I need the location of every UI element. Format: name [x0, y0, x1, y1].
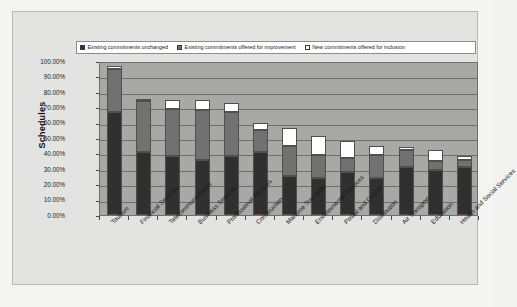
x-axis-tick-mark	[391, 216, 392, 220]
bar-segment[interactable]	[428, 150, 443, 162]
bar-segment[interactable]	[136, 99, 151, 101]
x-axis-tick-mark	[216, 216, 217, 220]
chart-legend: Existing commitments unchangedExisting c…	[76, 41, 476, 54]
bar-segment[interactable]	[369, 146, 384, 155]
x-axis-tick-mark	[332, 216, 333, 220]
bar-segment[interactable]	[107, 112, 122, 215]
legend-label: Existing commitments unchanged	[88, 45, 169, 50]
bar-segment[interactable]	[282, 128, 297, 146]
y-axis-tick-label: 40.00%	[20, 151, 65, 157]
y-axis-tick-label: 30.00%	[20, 167, 65, 173]
bar-segment[interactable]	[282, 146, 297, 176]
bar-segment[interactable]	[224, 112, 239, 157]
bar-segment[interactable]	[311, 155, 326, 178]
x-axis-tick-mark	[420, 216, 421, 220]
x-axis-tick-mark	[128, 216, 129, 220]
bar-segment[interactable]	[107, 66, 122, 69]
bar-segment[interactable]	[224, 103, 239, 112]
bar-segment[interactable]	[340, 158, 355, 172]
legend-label: Existing commitments offered for improve…	[185, 45, 296, 50]
bar-segment[interactable]	[136, 152, 151, 215]
legend-entry: Existing commitments offered for improve…	[177, 45, 296, 50]
gridline	[100, 78, 477, 79]
bar-segment[interactable]	[399, 147, 414, 150]
x-axis-tick-mark	[449, 216, 450, 220]
bar-segment[interactable]	[457, 156, 472, 159]
bar-segment[interactable]	[369, 155, 384, 178]
bar-segment[interactable]	[253, 130, 268, 152]
bar-segment[interactable]	[165, 100, 180, 109]
legend-swatch-icon	[177, 45, 182, 50]
y-axis-tick-label: 80.00%	[20, 90, 65, 96]
legend-swatch-icon	[305, 45, 310, 50]
x-axis-tick-mark	[186, 216, 187, 220]
gridline	[100, 94, 477, 95]
x-axis-tick-mark	[361, 216, 362, 220]
legend-swatch-icon	[80, 45, 85, 50]
y-axis-tick-label: 100.00%	[20, 59, 65, 65]
legend-label: New commitments offered for inclusion	[312, 45, 405, 50]
bar-segment[interactable]	[136, 101, 151, 152]
bar-segment[interactable]	[107, 69, 122, 112]
chart-frame: Existing commitments unchangedExisting c…	[12, 11, 478, 285]
legend-entry: Existing commitments unchanged	[80, 45, 168, 50]
x-axis-tick-mark	[157, 216, 158, 220]
y-axis-tick-label: 50.00%	[20, 136, 65, 142]
bar-segment[interactable]	[195, 100, 210, 111]
bar-segment[interactable]	[253, 123, 268, 131]
legend-entry: New commitments offered for inclusion	[305, 45, 405, 50]
bar-segment[interactable]	[340, 141, 355, 158]
gridline	[100, 125, 477, 126]
y-axis-tick-label: 90.00%	[20, 74, 65, 80]
gridline	[100, 109, 477, 110]
bar-segment[interactable]	[399, 150, 414, 167]
bar-segment[interactable]	[195, 110, 210, 159]
plot-area	[99, 62, 478, 216]
x-axis-tick-mark	[99, 216, 100, 220]
bar-segment[interactable]	[165, 109, 180, 157]
bar-segment[interactable]	[311, 136, 326, 155]
y-axis-tick-label: 10.00%	[20, 197, 65, 203]
x-axis-tick-mark	[478, 216, 479, 220]
y-axis-tick-label: 0.00%	[20, 213, 65, 219]
bar-segment[interactable]	[428, 161, 443, 170]
y-axis-tick-label: 70.00%	[20, 105, 65, 111]
x-axis-tick-mark	[245, 216, 246, 220]
x-axis-tick-mark	[274, 216, 275, 220]
y-axis-tick-label: 60.00%	[20, 120, 65, 126]
y-axis-tick-label: 20.00%	[20, 182, 65, 188]
x-axis-tick-mark	[303, 216, 304, 220]
bar-segment[interactable]	[457, 160, 472, 168]
